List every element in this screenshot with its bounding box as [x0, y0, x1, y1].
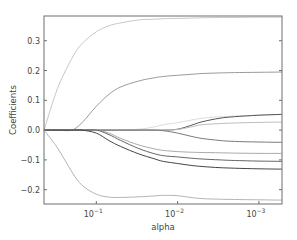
y-tick-label: 0.1	[27, 96, 40, 105]
series-line-coef_5	[44, 122, 282, 130]
x-axis-label: alpha	[151, 222, 175, 232]
x-tick-label: 10−2	[165, 207, 184, 219]
x-tick-label: 10−1	[84, 207, 103, 219]
series-line-coef_6	[44, 130, 282, 142]
y-tick-label: 0.2	[27, 67, 40, 76]
plot-frame	[44, 16, 282, 204]
y-tick-label: −0.1	[21, 156, 40, 165]
series-line-coef_9	[44, 130, 282, 169]
y-tick-label: 0.3	[27, 37, 40, 46]
series-line-coef_10	[44, 130, 282, 200]
series-lines	[44, 17, 282, 200]
y-tick-label: −0.2	[21, 186, 40, 195]
series-line-coef_8	[44, 130, 282, 162]
x-tick-label: 10−3	[246, 207, 265, 219]
series-line-coef_2	[44, 72, 282, 131]
coefficient-path-chart: 0.30.20.10.0−0.1−0.2 10−110−210−3 alpha …	[0, 0, 297, 240]
y-axis-label: Coefficients	[8, 84, 18, 135]
y-tick-label: 0.0	[27, 126, 40, 135]
series-line-coef_1	[44, 17, 282, 130]
